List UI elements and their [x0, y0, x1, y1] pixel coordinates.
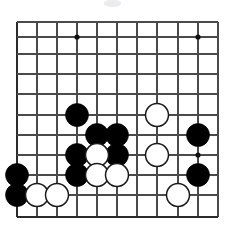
go-board-grid[interactable]	[0, 0, 226, 241]
stone-white-17[interactable]	[167, 184, 190, 207]
star-point-2	[195, 152, 200, 157]
stone-black-0[interactable]	[66, 104, 89, 127]
stone-black-6[interactable]	[6, 164, 29, 187]
stone-white-14[interactable]	[106, 164, 129, 187]
star-point-1	[195, 34, 200, 39]
stone-white-16[interactable]	[46, 184, 69, 207]
stone-white-12[interactable]	[146, 144, 169, 167]
stone-black-3[interactable]	[187, 124, 210, 147]
stone-black-2[interactable]	[106, 124, 129, 147]
stone-white-10[interactable]	[146, 104, 169, 127]
go-board-figure	[0, 0, 226, 241]
stone-black-8[interactable]	[187, 164, 210, 187]
star-point-0	[74, 34, 79, 39]
